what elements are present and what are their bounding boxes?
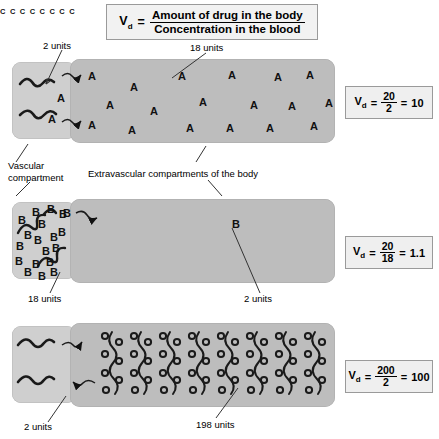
molecule-c-extravascular: C — [30, 7, 35, 16]
molecule-c-vascular: C — [0, 7, 5, 16]
vd-equals-row2: = — [369, 247, 375, 259]
vd-result-box-row1: Vd = 20 2 = 10 — [345, 86, 433, 119]
formula-numerator: Amount of drug in the body — [150, 9, 305, 23]
molecule-a-extravascular: A — [88, 70, 96, 82]
vd-value-row1: 10 — [411, 97, 423, 109]
molecule-a-extravascular: A — [228, 69, 236, 81]
molecule-a-extravascular: A — [178, 70, 186, 82]
caption-extravascular-units-row2: 2 units — [244, 293, 272, 304]
label-vascular-compartment-line2: compartment — [8, 172, 63, 184]
vd-formula-box: Vd = Amount of drug in the body Concentr… — [106, 4, 318, 40]
molecule-a-extravascular: A — [186, 122, 194, 134]
vd-symbol-row3: Vd — [349, 369, 361, 384]
formula-denominator: Concentration in the blood — [152, 23, 302, 36]
molecule-b-vascular: B — [24, 266, 32, 278]
molecule-b-extravascular: B — [232, 218, 240, 230]
formula-equals: = — [138, 15, 145, 29]
molecule-c-vascular: C — [10, 7, 15, 16]
molecule-b-vascular: B — [16, 240, 24, 252]
molecule-a-vascular: A — [48, 113, 56, 125]
vascular-compartment-row3 — [12, 326, 76, 403]
molecule-b-vascular: B — [24, 229, 32, 241]
molecule-b-vascular: B — [50, 266, 58, 278]
caption-vascular-units-row3: 2 units — [24, 421, 52, 432]
formula-fraction: Amount of drug in the body Concentration… — [150, 9, 305, 36]
molecule-a-extravascular: A — [250, 99, 258, 111]
figure-canvas: Vd = Amount of drug in the body Concentr… — [0, 0, 439, 439]
molecule-c-extravascular: C — [59, 7, 64, 16]
molecule-a-extravascular: A — [226, 122, 234, 134]
label-extravascular-compartments: Extravascular compartments of the body — [88, 168, 258, 179]
molecule-a-extravascular: A — [88, 119, 96, 131]
molecule-c-extravascular: C — [69, 7, 74, 16]
molecule-a-extravascular: A — [306, 69, 314, 81]
vd-equals2-row1: = — [401, 97, 407, 109]
molecule-a-extravascular: A — [128, 124, 136, 136]
vd-symbol: Vd — [119, 14, 132, 31]
vd-fraction-row3: 200 2 — [375, 365, 397, 388]
vd-equals-row3: = — [365, 371, 371, 383]
vd-value-row3: 100 — [411, 371, 429, 383]
label-vascular-compartment: Vascular compartment — [8, 160, 63, 184]
caption-extravascular-units-row3: 198 units — [196, 419, 235, 430]
caption-extravascular-units-row1: 18 units — [190, 42, 223, 53]
vd-denominator-row3: 2 — [381, 377, 391, 388]
molecule-a-extravascular: A — [199, 96, 207, 108]
molecule-c-extravascular: C — [40, 7, 45, 16]
molecule-b-vascular: B — [18, 214, 26, 226]
vd-denominator-row2: 18 — [380, 253, 396, 264]
molecule-a-extravascular: A — [310, 120, 318, 132]
vd-result-box-row3: Vd = 200 2 = 100 — [345, 360, 433, 393]
vd-symbol-row1: Vd — [354, 95, 366, 110]
extravascular-compartment-row3 — [70, 323, 335, 407]
molecule-a-vascular: A — [57, 92, 65, 104]
molecule-b-vessel-edge: B — [63, 207, 71, 219]
vd-equals2-row3: = — [401, 371, 407, 383]
molecule-a-extravascular: A — [150, 105, 158, 117]
molecule-b-vascular: B — [38, 270, 46, 282]
vd-equals2-row2: = — [399, 247, 405, 259]
label-vascular-compartment-line1: Vascular — [8, 160, 63, 172]
molecule-b-vascular: B — [58, 226, 66, 238]
molecule-b-vascular: B — [32, 258, 40, 270]
vd-value-row2: 1.1 — [410, 247, 425, 259]
molecule-a-extravascular: A — [130, 81, 138, 93]
molecule-a-extravascular: A — [288, 100, 296, 112]
molecule-c-extravascular: C — [20, 7, 25, 16]
molecule-b-vascular: B — [32, 206, 40, 218]
caption-vascular-units-row2: 18 units — [28, 293, 61, 304]
extravascular-compartment-row2 — [70, 199, 335, 283]
vd-fraction-row2: 20 18 — [380, 241, 396, 264]
vd-fraction-row1: 20 2 — [381, 91, 397, 114]
molecule-b-vascular: B — [34, 234, 42, 246]
vd-equals-row1: = — [371, 97, 377, 109]
molecule-a-extravascular: A — [325, 97, 333, 109]
vd-denominator-row1: 2 — [384, 103, 394, 114]
molecule-b-vascular: B — [47, 203, 55, 215]
molecule-c-extravascular: C — [49, 7, 54, 16]
vd-result-box-row2: Vd = 20 18 = 1.1 — [345, 236, 433, 269]
molecule-a-extravascular: A — [274, 71, 282, 83]
molecule-b-vascular: B — [38, 218, 46, 230]
molecule-b-vascular: B — [52, 242, 60, 254]
molecule-b-vascular: B — [15, 255, 23, 267]
caption-vascular-units-row1: 2 units — [43, 40, 71, 51]
vascular-compartment-row1 — [12, 62, 76, 139]
molecule-a-extravascular: A — [266, 122, 274, 134]
vd-symbol-row2: Vd — [353, 245, 365, 260]
molecule-a-extravascular: A — [106, 99, 114, 111]
